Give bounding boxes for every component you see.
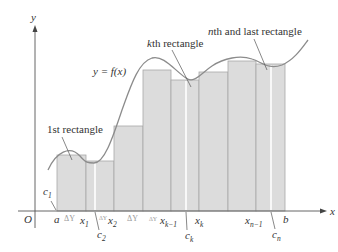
tick-a: a bbox=[54, 213, 60, 225]
cn-label: cn bbox=[272, 228, 281, 243]
rectangle-3 bbox=[114, 126, 143, 211]
delta-label-1: ΔY bbox=[64, 214, 75, 223]
curve-label: y = f(x) bbox=[92, 65, 126, 78]
x-axis-arrow-icon bbox=[320, 209, 327, 214]
x-tick-labels: a x1 x2 xk−1 xk xn−1 b bbox=[54, 213, 289, 229]
origin-label: O bbox=[24, 213, 32, 225]
delta-label-4: ΔY bbox=[149, 216, 158, 222]
delta-label-2: ΔY bbox=[99, 215, 108, 221]
tick-xn-1: xn−1 bbox=[244, 214, 262, 229]
tick-x1: x1 bbox=[79, 214, 89, 229]
y-axis-label: y bbox=[30, 11, 36, 23]
x-axis-label: x bbox=[329, 205, 335, 217]
rectangle-5 bbox=[171, 80, 199, 211]
riemann-sum-diagram: x y O y = f(x) 1st rectangle kth rectang… bbox=[0, 0, 338, 252]
rectangles bbox=[57, 61, 285, 211]
c2-label: c2 bbox=[97, 228, 106, 243]
rectangle-1 bbox=[57, 155, 86, 211]
cn-pointer bbox=[271, 212, 275, 229]
c1-pointer bbox=[51, 201, 56, 210]
y-axis-arrow-icon bbox=[33, 25, 38, 32]
c1-label: c1 bbox=[43, 185, 52, 200]
tick-xk-1: xk−1 bbox=[159, 214, 177, 229]
rectangle-6 bbox=[199, 72, 228, 211]
rectangle-4 bbox=[143, 70, 171, 211]
delta-label-3: ΔY bbox=[127, 214, 138, 223]
tick-b: b bbox=[283, 213, 289, 225]
tick-xk: xk bbox=[194, 214, 204, 229]
rectangle-7 bbox=[228, 61, 256, 211]
kth-rectangle-label: kth rectangle bbox=[147, 37, 204, 49]
ck-pointer bbox=[186, 212, 187, 230]
tick-x2: x2 bbox=[107, 214, 117, 229]
ck-label: ck bbox=[185, 229, 194, 244]
nth-rectangle-label: nth and last rectangle bbox=[208, 25, 302, 37]
rectangle-2 bbox=[86, 161, 114, 211]
first-rectangle-label: 1st rectangle bbox=[47, 123, 103, 135]
